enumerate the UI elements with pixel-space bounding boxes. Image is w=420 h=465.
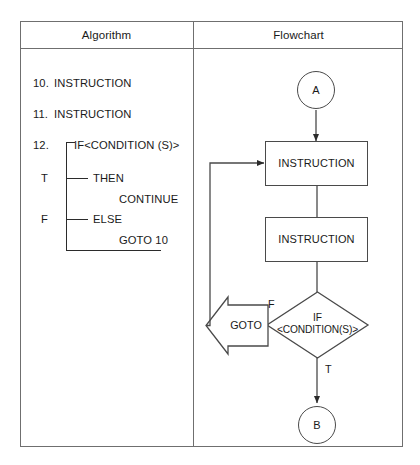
flowchart-node-instruction-2-label: INSTRUCTION	[278, 233, 354, 245]
column-divider	[193, 21, 194, 447]
column-header-algorithm: Algorithm	[20, 25, 193, 45]
edge-label-true: T	[325, 363, 332, 375]
flowchart-node-decision-label: IF <CONDITION(S)>	[267, 312, 368, 336]
flowchart-node-start-a: A	[297, 71, 335, 109]
algo-line-12-condition: IF<CONDITION (S)>	[74, 139, 180, 152]
flowchart-node-decision: IF <CONDITION(S)>	[267, 292, 368, 358]
branch-keyword-then: THEN	[93, 172, 124, 185]
flowchart-node-instruction-2: INSTRUCTION	[265, 217, 368, 262]
algo-line-12-number: 12.	[33, 139, 49, 152]
algo-line-11-number: 11.	[33, 108, 48, 121]
flowchart-node-end-b: B	[298, 406, 336, 444]
header-row-divider	[20, 48, 403, 49]
branch-body-continue: CONTINUE	[119, 193, 178, 206]
branch-bracket-tick-then	[66, 178, 88, 179]
branch-keyword-else: ELSE	[93, 213, 122, 226]
flowchart-node-decision-label-line1: IF	[267, 312, 368, 324]
algo-line-10-text: INSTRUCTION	[54, 77, 132, 90]
branch-flag-true: T	[41, 172, 48, 185]
flowchart-node-start-a-label: A	[312, 84, 319, 96]
edge-label-false: F	[268, 298, 275, 310]
clipped-caption-strip	[0, 0, 420, 9]
flowchart-node-instruction-1-label: INSTRUCTION	[278, 157, 354, 169]
algo-line-11-text: INSTRUCTION	[54, 108, 132, 121]
branch-bracket-stem	[66, 142, 67, 251]
column-header-flowchart: Flowchart	[194, 25, 403, 45]
branch-bracket-foot	[66, 250, 161, 251]
flowchart-node-goto: GOTO	[206, 305, 269, 346]
flowchart-node-instruction-1: INSTRUCTION	[265, 141, 368, 186]
branch-bracket-top-hook	[66, 142, 75, 143]
flowchart-node-decision-label-line2: <CONDITION(S)>	[267, 324, 368, 336]
branch-body-goto-10: GOTO 10	[119, 234, 168, 247]
branch-bracket-tick-else	[66, 219, 88, 220]
algo-line-10-number: 10.	[33, 77, 49, 90]
figure-root: Algorithm Flowchart 10. INSTRUCTION 11. …	[0, 0, 420, 465]
flowchart-node-end-b-label: B	[313, 419, 320, 431]
branch-flag-false: F	[41, 213, 48, 226]
flowchart-node-goto-label: GOTO	[224, 318, 268, 332]
